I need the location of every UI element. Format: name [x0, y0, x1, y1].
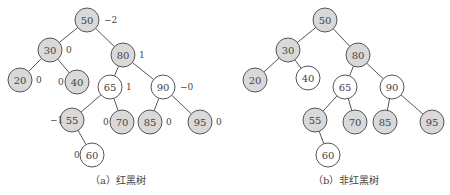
svg-text:55: 55	[66, 115, 79, 126]
balance-label: 1	[126, 82, 132, 92]
svg-text:70: 70	[349, 117, 362, 128]
balance-label: 0	[58, 77, 64, 87]
svg-text:80: 80	[117, 50, 130, 61]
tree-node-50: 50	[313, 8, 337, 32]
balance-label: −1	[50, 115, 63, 125]
caption-b: （b）非红黑树	[313, 172, 379, 187]
svg-text:65: 65	[104, 82, 117, 93]
tree-node-50: 50−2	[75, 8, 117, 32]
svg-text:90: 90	[386, 82, 399, 93]
tree-node-65: 65	[333, 75, 357, 99]
balance-label: −2	[104, 15, 117, 25]
tree-node-95: 950	[188, 110, 222, 134]
tree-node-80: 801	[111, 43, 145, 67]
tree-node-60: 600	[74, 143, 104, 167]
tree-node-70: 700	[103, 110, 134, 134]
red-black-tree-diagram: 50−230080120040065190−055−17008509506005…	[0, 0, 450, 195]
edge-65-55	[323, 96, 337, 111]
balance-label: −0	[180, 82, 194, 92]
tree-node-60: 60	[316, 143, 340, 167]
tree-a: 50−230080120040065190−055−1700850950600	[8, 8, 222, 167]
edge-30-20	[28, 58, 41, 71]
edge-50-80	[333, 29, 350, 47]
tree-node-30: 300	[38, 38, 72, 62]
tree-b: 503080204065905570859560	[243, 8, 444, 167]
edge-90-85	[154, 98, 159, 111]
balance-label: 0	[66, 45, 72, 55]
svg-text:50: 50	[81, 15, 94, 26]
svg-text:60: 60	[322, 150, 335, 161]
edge-90-95	[172, 95, 192, 114]
balance-label: 1	[139, 50, 145, 60]
tree-node-40: 40	[296, 66, 320, 90]
edge-30-20	[264, 58, 279, 72]
edge-65-70	[348, 99, 351, 111]
edge-65-55	[81, 95, 101, 112]
edge-90-85	[387, 99, 389, 110]
svg-text:40: 40	[302, 73, 315, 84]
edge-55-60	[78, 130, 86, 144]
balance-label: 0	[103, 117, 109, 127]
edge-50-80	[96, 28, 115, 46]
edge-80-65	[115, 66, 119, 76]
svg-text:70: 70	[116, 117, 129, 128]
caption-a: （a）红黑树	[90, 172, 146, 187]
edge-50-30	[297, 28, 315, 43]
tree-node-95: 95	[420, 110, 444, 134]
svg-text:55: 55	[309, 115, 322, 126]
edge-65-70	[114, 98, 118, 110]
balance-label: 0	[216, 117, 222, 127]
balance-label: 0	[166, 117, 172, 127]
tree-node-40: 400	[58, 70, 89, 94]
tree-node-65: 651	[98, 75, 132, 99]
svg-text:90: 90	[157, 82, 170, 93]
tree-node-55: 55−1	[50, 108, 84, 132]
tree-node-85: 85	[373, 110, 397, 134]
tree-node-70: 70	[343, 110, 367, 134]
edge-80-90	[132, 62, 153, 79]
edge-50-30	[59, 28, 77, 43]
svg-text:40: 40	[71, 77, 84, 88]
svg-text:65: 65	[339, 82, 352, 93]
tree-node-30: 30	[276, 38, 300, 62]
edge-30-40	[58, 59, 70, 73]
svg-text:30: 30	[44, 45, 57, 56]
svg-text:60: 60	[86, 150, 99, 161]
edge-55-60	[319, 131, 324, 144]
edge-30-40	[295, 60, 301, 68]
edge-90-95	[401, 95, 423, 114]
tree-node-20: 20	[243, 68, 267, 92]
balance-label: 0	[36, 75, 42, 85]
svg-text:30: 30	[282, 45, 295, 56]
svg-text:80: 80	[352, 50, 365, 61]
tree-node-90: 90	[380, 75, 404, 99]
tree-node-85: 850	[138, 110, 172, 134]
svg-text:20: 20	[14, 75, 27, 86]
tree-node-20: 200	[8, 68, 42, 92]
edge-80-90	[367, 63, 384, 79]
svg-text:20: 20	[249, 75, 262, 86]
svg-text:95: 95	[426, 117, 439, 128]
svg-text:95: 95	[194, 117, 207, 128]
svg-text:85: 85	[144, 117, 157, 128]
svg-text:85: 85	[379, 117, 392, 128]
svg-text:50: 50	[319, 15, 332, 26]
edge-80-65	[350, 66, 354, 76]
tree-node-80: 80	[346, 43, 370, 67]
balance-label: 0	[74, 150, 80, 160]
tree-node-55: 55	[303, 108, 327, 132]
